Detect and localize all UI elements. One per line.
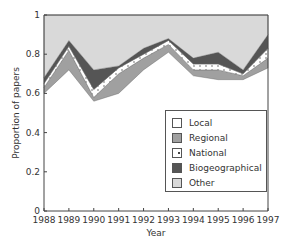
x-axis-title: Year — [145, 228, 165, 238]
x-tick-label: 1994 — [182, 215, 205, 225]
y-axis-title: Proportion of papers — [11, 67, 21, 159]
legend-item-biogeographical: Biogeographical — [172, 160, 266, 175]
legend-label: Regional — [189, 133, 228, 143]
chart-legend: Local Regional National Biogeographical … — [165, 110, 267, 192]
y-tick-label: 0.8 — [26, 49, 41, 59]
y-tick-label: 1 — [34, 10, 40, 20]
x-tick-label: 1992 — [132, 215, 155, 225]
x-tick-label: 1993 — [157, 215, 180, 225]
legend-label: Other — [189, 178, 215, 188]
legend-swatch-other — [172, 178, 182, 188]
legend-label: Local — [189, 118, 212, 128]
y-tick-label: 0.4 — [26, 128, 41, 138]
legend-item-local: Local — [172, 115, 266, 130]
x-tick-label: 1991 — [107, 215, 130, 225]
legend-item-regional: Regional — [172, 130, 266, 145]
legend-label: Biogeographical — [189, 163, 262, 173]
legend-swatch-local — [172, 118, 182, 128]
x-tick-label: 1996 — [232, 215, 255, 225]
x-tick-label: 1997 — [257, 215, 280, 225]
legend-swatch-national — [172, 148, 182, 158]
legend-item-national: National — [172, 145, 266, 160]
x-tick-label: 1989 — [57, 215, 80, 225]
legend-swatch-regional — [172, 133, 182, 143]
y-tick-label: 0.6 — [26, 88, 41, 98]
y-tick-label: 0.2 — [26, 167, 40, 177]
legend-label: National — [189, 148, 227, 158]
x-tick-label: 1990 — [82, 215, 105, 225]
x-tick-label: 1988 — [33, 215, 56, 225]
legend-swatch-biogeographical — [172, 163, 182, 173]
legend-item-other: Other — [172, 175, 266, 190]
x-tick-label: 1995 — [207, 215, 230, 225]
